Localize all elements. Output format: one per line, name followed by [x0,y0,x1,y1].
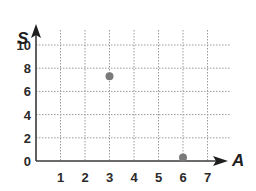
scatter-chart: 12345670246810 A S [0,0,256,191]
tick-labels: 12345670246810 [17,38,212,185]
y-tick-label: 8 [24,61,31,76]
x-tick-label: 3 [106,170,113,185]
y-axis-label: S [17,29,29,48]
x-tick-label: 4 [130,170,138,185]
grid [36,30,230,161]
y-tick-label: 6 [24,84,31,99]
data-points [106,72,188,161]
x-tick-label: 6 [179,170,186,185]
x-tick-label: 5 [155,170,162,185]
x-tick-label: 1 [57,170,64,185]
y-tick-label: 2 [24,131,31,146]
y-tick-label: 0 [24,154,31,169]
x-axis-label: A [231,151,244,170]
x-tick-label: 2 [81,170,88,185]
y-tick-label: 4 [24,108,32,123]
data-point [179,154,187,162]
x-tick-label: 7 [204,170,211,185]
data-point [106,72,114,80]
